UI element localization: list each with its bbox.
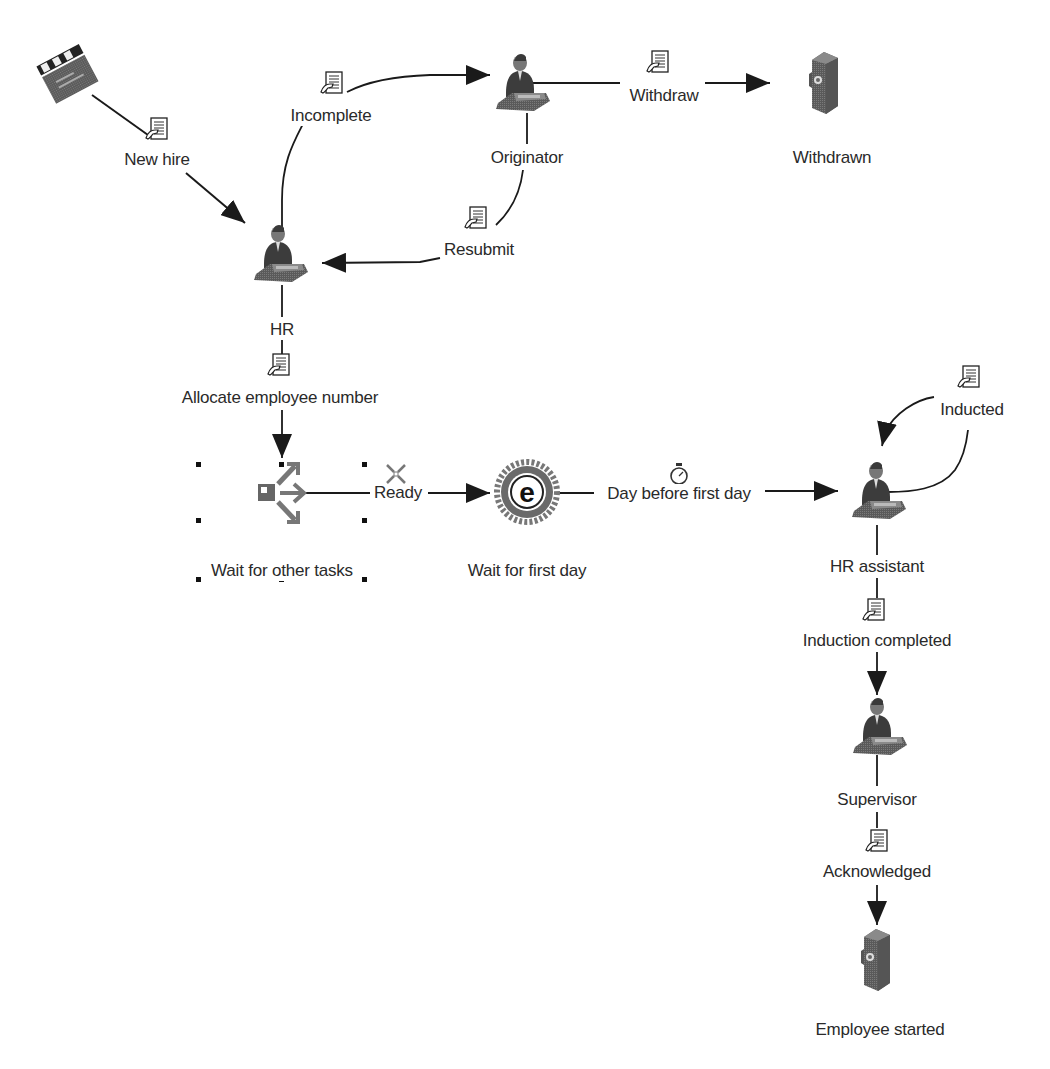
withdraw-document-icon[interactable] (647, 51, 668, 72)
node-label-hr-assistant[interactable]: HR assistant (829, 557, 925, 577)
node-label-hr[interactable]: HR (269, 320, 295, 340)
edge-incomplete-to-originator (347, 75, 490, 92)
edge-originator-to-resubmit (496, 170, 523, 225)
induction-completed-document-icon[interactable] (863, 599, 884, 620)
hr-assistant-person-icon[interactable] (852, 462, 906, 519)
transition-label-acknowledged[interactable]: Acknowledged (822, 862, 932, 882)
edge-hr-to-incomplete (282, 120, 305, 240)
edge-resubmit-to-hr (322, 258, 440, 263)
node-label-withdrawn[interactable]: Withdrawn (792, 148, 873, 168)
acknowledged-document-icon[interactable] (866, 830, 887, 851)
transition-label-inducted[interactable]: Inducted (939, 400, 1005, 420)
edge-new-hire-to-hr (186, 173, 245, 223)
transition-label-allocate-employee-number[interactable]: Allocate employee number (181, 388, 379, 408)
allocate-document-icon[interactable] (268, 354, 289, 375)
svg-text:e: e (519, 477, 535, 508)
transition-label-ready[interactable]: Ready (373, 483, 423, 503)
inducted-document-icon[interactable] (958, 366, 979, 387)
merge-arrows-icon[interactable] (387, 465, 405, 483)
transition-label-withdraw[interactable]: Withdraw (628, 86, 699, 106)
edge-start-to-new-hire (92, 95, 148, 135)
transition-label-resubmit[interactable]: Resubmit (443, 240, 515, 260)
edge-inducted-to-hr-assistant (882, 397, 934, 446)
resubmit-document-icon[interactable] (465, 207, 486, 228)
supervisor-person-icon[interactable] (853, 698, 907, 755)
stopwatch-icon[interactable] (671, 463, 687, 484)
transition-label-day-before-first-day[interactable]: Day before first day (606, 484, 751, 504)
node-label-wait-for-other-tasks[interactable]: Wait for other tasks (210, 561, 354, 581)
split-join-icon[interactable] (258, 464, 304, 522)
hr-person-icon[interactable] (254, 225, 308, 282)
incomplete-document-icon[interactable] (321, 72, 342, 93)
transition-label-incomplete[interactable]: Incomplete (289, 106, 372, 126)
event-gear-icon[interactable]: e (497, 462, 557, 522)
transition-label-new-hire[interactable]: New hire (123, 150, 190, 170)
new-hire-document-icon[interactable] (146, 118, 167, 139)
transition-label-induction-completed[interactable]: Induction completed (802, 631, 952, 651)
node-label-supervisor[interactable]: Supervisor (836, 790, 917, 810)
node-label-employee-started[interactable]: Employee started (814, 1020, 945, 1040)
node-label-originator[interactable]: Originator (490, 148, 565, 168)
edge-hr-assistant-to-inducted (888, 430, 968, 492)
clapperboard-icon[interactable] (36, 44, 98, 104)
node-label-wait-for-first-day[interactable]: Wait for first day (467, 561, 588, 581)
withdrawn-safe-icon[interactable] (809, 52, 838, 114)
employee-started-safe-icon[interactable] (861, 929, 890, 991)
